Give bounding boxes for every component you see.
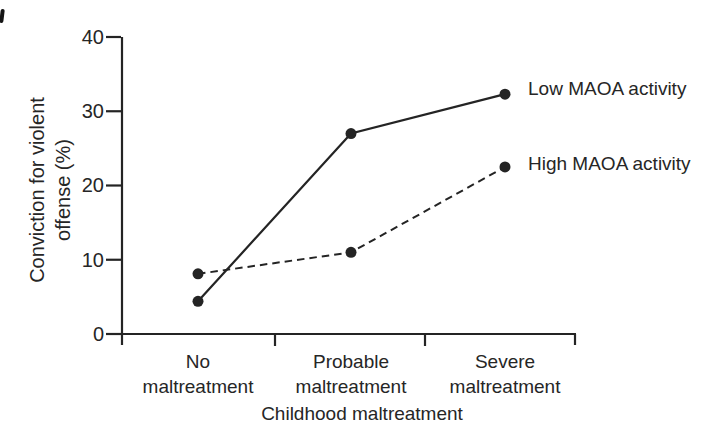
data-point-low-maoa <box>193 296 204 307</box>
series-line-low-maoa <box>198 94 505 301</box>
data-point-high-maoa <box>193 268 204 279</box>
category-line1: Severe <box>405 349 605 374</box>
y-tick-label-30: 30 <box>56 101 104 121</box>
series-label-high-maoa: High MAOA activity <box>528 154 691 174</box>
figure: Conviction for violent offense (%) 0 10 … <box>0 0 726 446</box>
x-category-label-severe-maltreatment: Severe maltreatment <box>405 349 605 399</box>
y-tick-label-10: 10 <box>56 250 104 270</box>
x-axis-title: Childhood maltreatment <box>212 403 512 425</box>
category-line2: maltreatment <box>405 374 605 399</box>
data-point-high-maoa <box>346 247 357 258</box>
series-line-high-maoa <box>198 167 505 274</box>
data-point-low-maoa <box>346 128 357 139</box>
y-axis-title-line1: Conviction for violent <box>24 40 50 340</box>
y-tick-label-40: 40 <box>56 27 104 47</box>
data-point-low-maoa <box>500 89 511 100</box>
y-tick-label-20: 20 <box>56 175 104 195</box>
series-label-low-maoa: Low MAOA activity <box>528 79 686 99</box>
data-point-high-maoa <box>500 161 511 172</box>
y-tick-label-0: 0 <box>56 324 104 344</box>
